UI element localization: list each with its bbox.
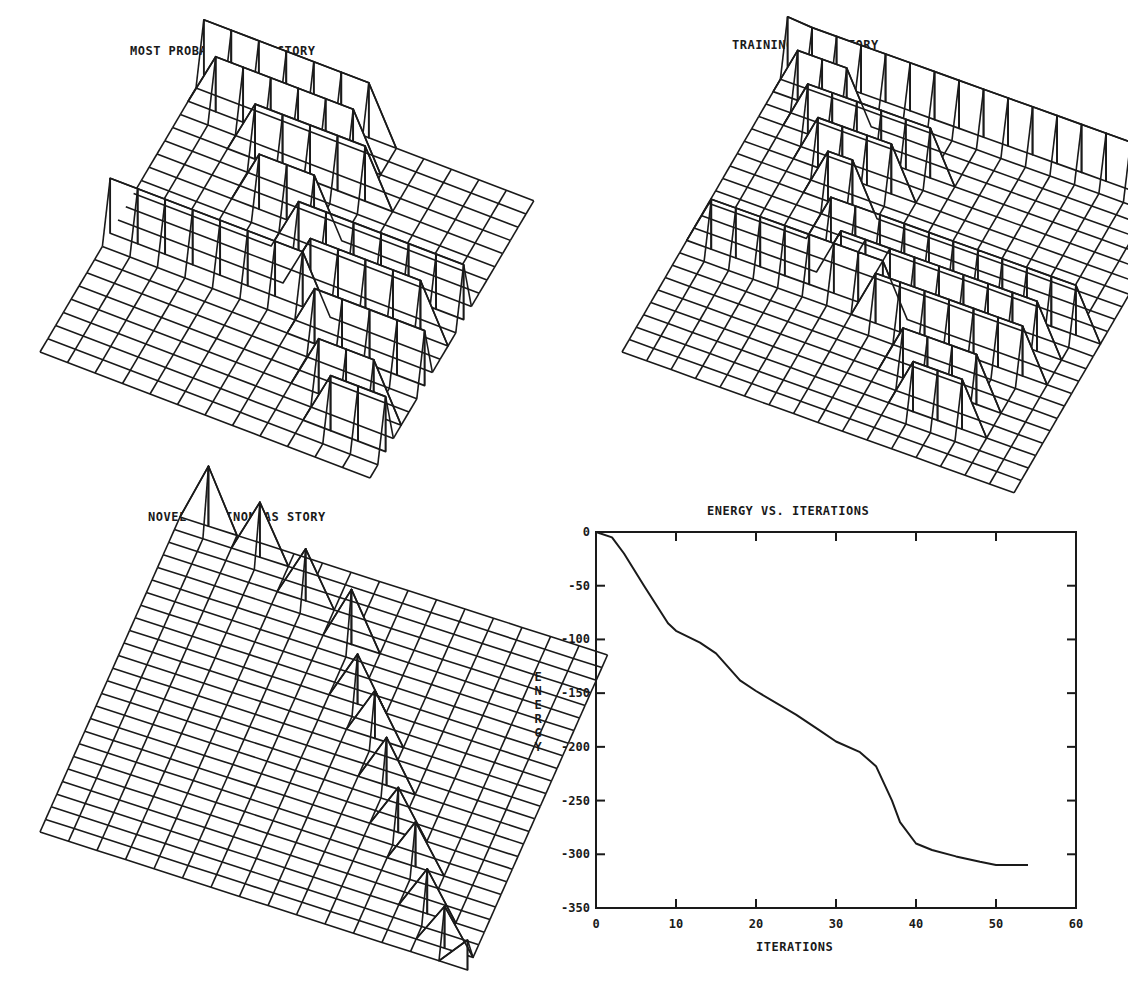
- x-axis-label: ITERATIONS: [756, 940, 833, 954]
- panel-most-probable-trajectory: MOST PROBABLE TRAJECTORY: [0, 0, 564, 470]
- x-tick-label: 30: [829, 917, 843, 931]
- energy-line-chart: 01020304050600-50-100-150-200-250-300-35…: [520, 490, 1128, 960]
- y-tick-label: 0: [583, 525, 590, 539]
- wireframe-surface-plot: [0, 490, 564, 930]
- y-tick-label: -100: [561, 632, 590, 646]
- y-tick-label: -350: [561, 901, 590, 915]
- y-tick-label: -250: [561, 794, 590, 808]
- x-tick-label: 0: [592, 917, 599, 931]
- x-tick-label: 20: [749, 917, 763, 931]
- x-tick-label: 40: [909, 917, 923, 931]
- panel-novel-story: NOVEL EPAMINONDAS STORY: [0, 490, 564, 930]
- y-tick-label: -200: [561, 740, 590, 754]
- y-tick-label: -150: [561, 686, 590, 700]
- y-tick-label: -50: [568, 579, 590, 593]
- y-tick-label: -300: [561, 847, 590, 861]
- panel-energy-chart: ENERGY VS. ITERATIONS E N E R G Y 010203…: [520, 490, 1128, 960]
- x-tick-label: 10: [669, 917, 683, 931]
- wireframe-surface-plot: [564, 0, 1128, 470]
- panel-training-trajectory: TRAINING TRAJECTORY: [564, 0, 1128, 470]
- wireframe-surface-plot: [0, 0, 564, 470]
- energy-line: [596, 532, 1028, 865]
- x-tick-label: 60: [1069, 917, 1083, 931]
- x-tick-label: 50: [989, 917, 1003, 931]
